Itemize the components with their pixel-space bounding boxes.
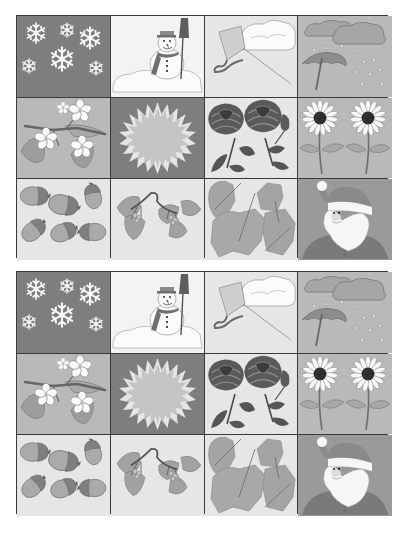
card-roses: roses [205, 98, 297, 178]
acorns-icon [17, 179, 110, 260]
kite-icon [205, 272, 297, 353]
card-roses: roses [205, 354, 297, 434]
card-grid-bottom: snowflakes snowman kite-and-cloud umbrel… [16, 271, 388, 514]
fallen-leaves-icon [205, 435, 297, 516]
sunflowers-icon [298, 354, 392, 434]
berry-branch-icon [111, 179, 204, 260]
santa-icon [298, 435, 392, 516]
card-snowman: snowman [111, 272, 204, 353]
card-sunflowers: sunflowers [298, 98, 392, 178]
card-santa: santa-claus [298, 435, 392, 516]
card-snowflakes: snowflakes [17, 272, 110, 353]
card-snowman: snowman [111, 16, 204, 97]
card-leaves: fallen-leaves [205, 435, 297, 516]
sun-icon [111, 98, 204, 178]
snowflakes-icon [17, 272, 110, 353]
umbrella-rain-icon [298, 272, 392, 353]
card-umbrella-rain: umbrella-rain-clouds [298, 16, 392, 97]
roses-icon [205, 354, 297, 434]
blossom-branch-icon [17, 354, 110, 434]
acorns-icon [17, 435, 110, 516]
berry-branch-icon [111, 435, 204, 516]
umbrella-rain-icon [298, 16, 392, 97]
card-blossom: blossom-branch [17, 98, 110, 178]
card-acorns: acorns [17, 179, 110, 260]
snowman-icon [111, 272, 204, 353]
card-sunflowers: sunflowers [298, 354, 392, 434]
card-berry-branch: berry-branch [111, 435, 204, 516]
roses-icon [205, 98, 297, 178]
card-sun: sun [111, 98, 204, 178]
card-leaves: fallen-leaves [205, 179, 297, 260]
card-santa: santa-claus [298, 179, 392, 260]
card-berry-branch: berry-branch [111, 179, 204, 260]
card-kite: kite-and-cloud [205, 272, 297, 353]
snowman-icon [111, 16, 204, 97]
sun-icon [111, 354, 204, 434]
santa-icon [298, 179, 392, 260]
blossom-branch-icon [17, 98, 110, 178]
card-acorns: acorns [17, 435, 110, 516]
card-kite: kite-and-cloud [205, 16, 297, 97]
card-blossom: blossom-branch [17, 354, 110, 434]
card-umbrella-rain: umbrella-rain-clouds [298, 272, 392, 353]
card-sun: sun [111, 354, 204, 434]
fallen-leaves-icon [205, 179, 297, 260]
sunflowers-icon [298, 98, 392, 178]
kite-icon [205, 16, 297, 97]
card-grid-top: snowflakes snowman kite-and-cloud umbrel… [16, 15, 388, 258]
snowflakes-icon [17, 16, 110, 97]
card-snowflakes: snowflakes [17, 16, 110, 97]
